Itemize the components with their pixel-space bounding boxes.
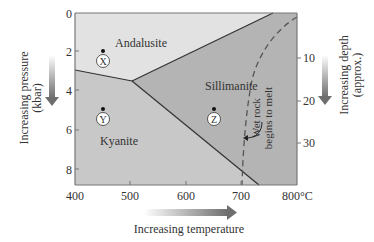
svg-text:Z: Z (211, 114, 217, 125)
x-tick-400: 400 (66, 189, 84, 203)
depth-axis-label: Increasing depth (approx.) (337, 35, 364, 115)
temperature-axis-label: Increasing temperature (134, 222, 244, 236)
depth-tick-30: 30 (303, 136, 315, 150)
point-x-dot (101, 49, 105, 53)
sillimanite-label: Sillimanite (205, 79, 258, 93)
svg-text:(kbar): (kbar) (30, 83, 44, 112)
svg-text:Increasing depth: Increasing depth (337, 35, 351, 115)
pressure-arrow (45, 55, 59, 106)
kyanite-label: Kyanite (100, 134, 138, 148)
svg-text:Increasing pressure: Increasing pressure (17, 52, 31, 145)
x-tick-600: 600 (177, 189, 195, 203)
x-tick-700: 700 (232, 189, 250, 203)
y-tick-0: 0 (66, 7, 72, 21)
temperature-arrow (144, 205, 237, 220)
svg-text:X: X (99, 56, 107, 67)
depth-axis-ticks: 10 20 30 (297, 51, 315, 150)
svg-text:Y: Y (99, 114, 106, 125)
depth-tick-20: 20 (303, 94, 315, 108)
svg-text:Wet rock: Wet rock (250, 98, 262, 138)
x-tick-500: 500 (121, 189, 139, 203)
point-y-dot (101, 107, 105, 111)
y-tick-4: 4 (66, 84, 72, 98)
depth-tick-10: 10 (303, 51, 315, 65)
y-tick-6: 6 (66, 123, 72, 137)
point-z-dot (212, 107, 216, 111)
andalusite-label: Andalusite (115, 36, 167, 50)
depth-arrow (318, 55, 332, 105)
pressure-axis-label: Increasing pressure (kbar) (17, 52, 44, 145)
svg-text:(approx.): (approx.) (350, 53, 364, 97)
x-tick-800: 800°C (282, 189, 313, 203)
y-tick-2: 2 (66, 45, 72, 59)
y-tick-8: 8 (66, 163, 72, 177)
phase-diagram: Andalusite Sillimanite Kyanite Wet rock … (0, 0, 374, 242)
svg-text:begins to melt: begins to melt (262, 87, 274, 149)
